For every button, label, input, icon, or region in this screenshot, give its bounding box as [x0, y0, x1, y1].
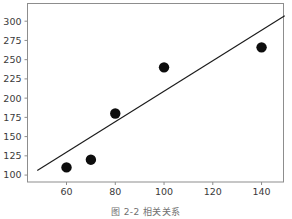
data-point [61, 162, 71, 172]
x-tick-label: 120 [204, 186, 222, 197]
data-point [86, 154, 96, 164]
y-tick-label: 300 [3, 16, 21, 27]
caption-prefix: 图 [111, 207, 121, 217]
scatter-plot: 100125150175200225250275300 608010012014… [0, 0, 292, 219]
y-axis-labels: 100125150175200225250275300 [3, 16, 21, 181]
caption-title: 相关关系 [143, 207, 181, 217]
x-tick-label: 140 [252, 186, 270, 197]
y-tick-label: 125 [3, 150, 21, 161]
y-tick-label: 225 [3, 73, 21, 84]
data-point [159, 62, 169, 72]
y-tick-label: 100 [3, 169, 21, 180]
plot-frame [28, 4, 284, 183]
data-point [256, 42, 266, 52]
trend-line [37, 16, 284, 171]
figure-container: 100125150175200225250275300 608010012014… [0, 0, 292, 219]
x-tick-label: 60 [60, 186, 72, 197]
y-tick-label: 250 [3, 54, 21, 65]
y-tick-label: 200 [3, 93, 21, 104]
data-point [110, 108, 120, 118]
x-tick-label: 100 [155, 186, 173, 197]
caption-number: 2-2 [124, 207, 140, 217]
y-tick-label: 175 [3, 112, 21, 123]
x-axis-labels: 6080100120140 [60, 186, 270, 197]
x-tick-label: 80 [109, 186, 121, 197]
figure-caption: 图2-2相关关系 [0, 205, 292, 219]
trend-line-path [37, 16, 284, 171]
y-tick-label: 150 [3, 131, 21, 142]
y-tick-label: 275 [3, 35, 21, 46]
data-points [61, 42, 266, 172]
